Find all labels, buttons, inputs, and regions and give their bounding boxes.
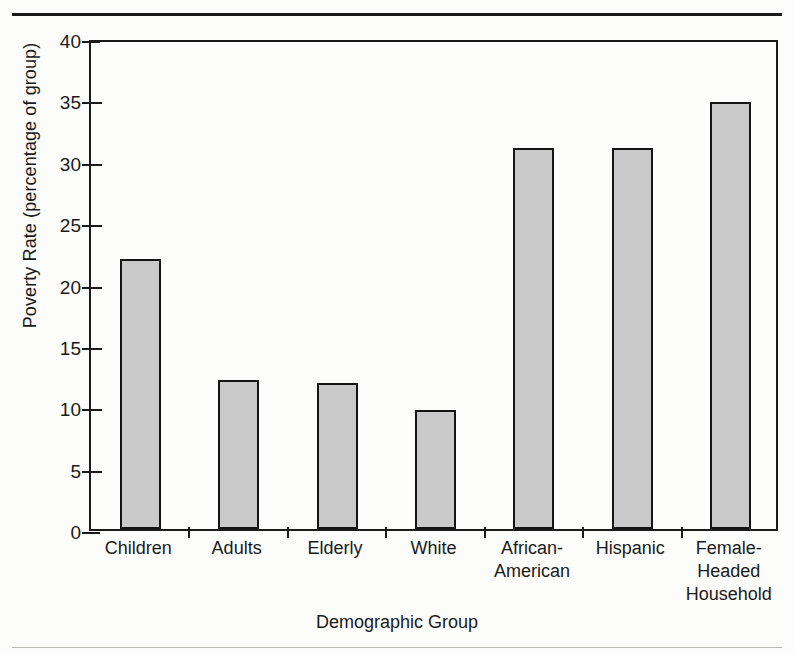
y-tick-mark — [82, 409, 102, 411]
x-tick-label: Children — [89, 537, 187, 560]
y-tick-mark — [82, 164, 102, 166]
y-tick-label: 25 — [60, 215, 81, 237]
bar — [218, 380, 259, 529]
bar — [612, 148, 653, 529]
y-axis-title: Poverty Rate (percentage of group) — [20, 0, 41, 466]
y-tick-label: 5 — [70, 461, 81, 483]
y-tick-mark — [82, 287, 102, 289]
bar — [317, 383, 358, 529]
x-tick-label: African- American — [483, 537, 581, 583]
plot-area: 0510152025303540 — [89, 40, 778, 531]
y-tick-label: 20 — [60, 277, 81, 299]
bottom-rule-divider — [12, 647, 782, 648]
y-tick-mark — [82, 225, 102, 227]
y-tick-mark — [82, 471, 102, 473]
y-tick-label: 10 — [60, 399, 81, 421]
bar — [710, 102, 751, 529]
y-tick-mark — [82, 348, 102, 350]
x-tick-label: Female- Headed Household — [680, 537, 778, 606]
bar — [120, 259, 161, 529]
bar — [415, 410, 456, 529]
x-tick-label: Hispanic — [581, 537, 679, 560]
figure-canvas: Poverty Rate (percentage of group) 05101… — [0, 0, 794, 653]
y-tick-label: 35 — [60, 92, 81, 114]
y-tick-mark — [82, 102, 102, 104]
y-tick-mark — [82, 532, 100, 534]
y-tick-label: 15 — [60, 338, 81, 360]
top-rule-divider — [12, 13, 782, 16]
x-axis-title: Demographic Group — [0, 612, 794, 633]
x-tick-label: Adults — [187, 537, 285, 560]
bar — [513, 148, 554, 529]
y-tick-label: 40 — [60, 31, 81, 53]
y-tick-label: 0 — [70, 522, 81, 544]
x-tick-label: Elderly — [286, 537, 384, 560]
y-tick-label: 30 — [60, 154, 81, 176]
x-tick-label: White — [384, 537, 482, 560]
y-tick-mark — [82, 41, 100, 43]
